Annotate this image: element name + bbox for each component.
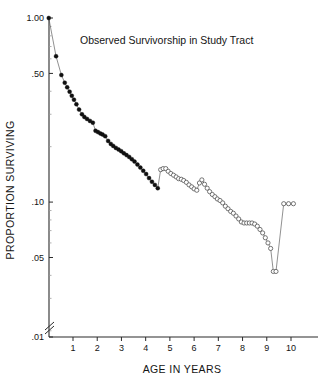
series-connector [158, 170, 161, 189]
series-0-marker [91, 121, 95, 125]
survivorship-chart-figure: 1.00.50.10.05.0112345678910 Observed Sur… [0, 0, 325, 379]
axes: 1.00.50.10.05.0112345678910 [26, 13, 318, 353]
series-0-marker [74, 102, 78, 106]
series-1-marker [261, 231, 265, 235]
series-0-marker [138, 166, 142, 170]
series-1-marker [269, 246, 273, 250]
series-1-marker [274, 269, 278, 273]
series-0-marker [141, 169, 145, 173]
series-0-marker [135, 163, 139, 167]
series-0-marker [59, 73, 63, 77]
y-axis-title: PROPORTION SURVIVING [4, 121, 16, 260]
series-1-line [161, 169, 294, 272]
series-1-marker [282, 202, 286, 206]
series-0-marker [156, 186, 160, 190]
series-1-marker [202, 182, 206, 186]
x-tick-label: 4 [143, 343, 148, 353]
x-tick-label: 1 [70, 343, 75, 353]
series-0-marker [68, 90, 72, 94]
series-0-marker [147, 176, 151, 180]
x-axis-title: AGE IN YEARS [143, 363, 222, 375]
series-0-marker [103, 134, 107, 138]
series-1-marker [263, 236, 267, 240]
chart-canvas: 1.00.50.10.05.0112345678910 Observed Sur… [0, 0, 325, 379]
series-0-marker [153, 183, 157, 187]
chart-title: Observed Survivorship in Study Tract [80, 34, 253, 46]
x-tick-label: 8 [240, 343, 245, 353]
y-tick-label: .05 [31, 253, 44, 263]
series-0-marker [150, 180, 154, 184]
y-tick-label: 1.00 [26, 13, 44, 23]
y-tick-label: .10 [31, 197, 44, 207]
data-series [47, 16, 296, 274]
series-0-marker [54, 54, 58, 58]
series-1-marker [266, 241, 270, 245]
y-tick-label: .50 [31, 69, 44, 79]
y-tick-label: .01 [31, 332, 44, 342]
x-tick-label: 9 [264, 343, 269, 353]
series-1-marker [291, 202, 295, 206]
x-tick-label: 5 [167, 343, 172, 353]
series-0-marker [65, 85, 69, 89]
series-1-marker [195, 188, 199, 192]
series-0-marker [72, 98, 76, 102]
series-0-marker [144, 172, 148, 176]
series-0-marker [47, 16, 51, 20]
x-tick-label: 7 [216, 343, 221, 353]
series-0-marker [77, 108, 81, 112]
series-0-marker [63, 81, 67, 85]
x-tick-label: 6 [192, 343, 197, 353]
series-0-marker [70, 94, 74, 98]
x-tick-label: 2 [95, 343, 100, 353]
series-1-marker [286, 202, 290, 206]
x-tick-label: 10 [286, 343, 296, 353]
series-1-marker [200, 178, 204, 182]
x-tick-label: 3 [119, 343, 124, 353]
